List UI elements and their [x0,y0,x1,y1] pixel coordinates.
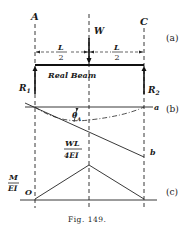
dim-arrowhead [90,51,94,54]
panel-c-tag: (c) [166,187,178,197]
dim-arrowhead [36,51,40,54]
panel-a-tag: (a) [166,33,178,43]
span-left-numerator: L [57,42,64,52]
angle-label: θA [72,110,81,122]
figure-caption: Fig. 149. [68,215,106,224]
axis-denominator: EI [7,184,18,193]
support-a-label: A [30,11,39,22]
span-right-numerator: L [113,42,120,52]
peak-numerator: WL [65,138,80,148]
dim-arrowhead [139,51,143,54]
line-b-label: b [150,147,156,157]
span-right-denominator: 2 [115,53,120,62]
load-arrowhead [87,58,92,64]
reaction-right-label: R2 [147,85,160,96]
elastic-curve [35,107,144,121]
moment-diagram [35,165,144,199]
reaction-left-arrowhead [33,66,38,71]
span-left-denominator: 2 [59,53,64,62]
origin-label: O [25,187,32,197]
reaction-right-arrowhead [142,66,147,71]
panel-b-tag: (b) [166,104,179,114]
axis-numerator: M [8,172,19,182]
support-c-label: C [140,16,148,27]
tangent-line-b [25,103,144,157]
reaction-left-label: R1 [18,83,31,94]
beam-diagram: A C W (a) L 2 L 2 Real Beam R1 R2 a (b) … [0,0,191,237]
dim-arrowhead [84,51,88,54]
peak-denominator: 4EI [64,151,79,160]
beam-label: Real Beam [47,70,96,80]
line-a-label: a [154,102,159,112]
load-label: W [94,26,105,36]
